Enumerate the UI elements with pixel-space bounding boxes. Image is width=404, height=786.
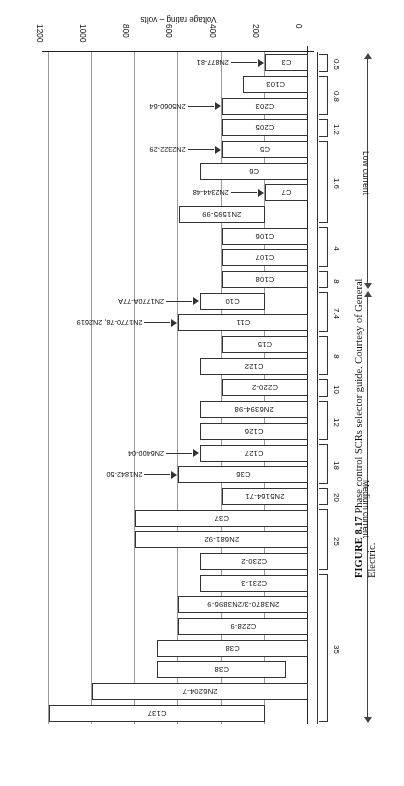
bar-row: C72N2344-48	[49, 184, 308, 201]
bar-row: C32N877-81	[49, 54, 308, 71]
bar-callout: 2N2322-29	[49, 141, 308, 158]
value-tick-label: 0	[294, 24, 304, 29]
bar-label: C107	[222, 249, 308, 266]
value-tick-label: 1000	[78, 24, 88, 43]
callout-line	[188, 149, 214, 150]
value-tick-label: 600	[165, 24, 175, 38]
bar-label: C108	[222, 271, 308, 288]
bar-label: C137	[49, 705, 265, 722]
bar-row: C220-2	[49, 380, 308, 397]
value-tick-label: 1200	[35, 24, 45, 43]
bar-row: C38	[49, 661, 308, 678]
bar-label: C103	[243, 76, 308, 93]
current-group-label: 35	[333, 641, 342, 659]
bar-row: C112N1770-78, 2N2619	[49, 314, 308, 331]
bar-row: C108	[49, 271, 308, 288]
bar-row: C228-9	[49, 618, 308, 635]
bar-row: C137	[49, 705, 308, 722]
bar-label: C38	[157, 640, 308, 657]
bar-row: C6	[49, 163, 308, 180]
current-group-bracket	[319, 509, 328, 570]
bar-label: C228-9	[179, 618, 309, 635]
current-group-bracket	[319, 401, 328, 440]
bar-label: C205	[222, 119, 308, 136]
bar-chart-plot-area: C32N877-81C103C2032N5060-64C205C52N2322-…	[49, 52, 308, 724]
bar-label: 2N6394-98	[200, 401, 308, 418]
bar-row: 2N1595-99	[49, 206, 308, 223]
bar-row: C362N1842-50	[49, 466, 308, 483]
bar-row: C231-3	[49, 575, 308, 592]
bar-callout: 2N1770A-77A	[49, 293, 308, 310]
current-group-bracket	[319, 141, 328, 224]
callout-arrowhead	[258, 59, 264, 67]
figure-number: FIGURE 8.17	[353, 516, 364, 578]
bar-label: 2N681-92	[135, 531, 308, 548]
bar-row: C107	[49, 249, 308, 266]
callout-line	[145, 474, 171, 475]
bar-label: C126	[200, 423, 308, 440]
value-tick-label: 400	[208, 24, 218, 38]
bar-row: C38	[49, 640, 308, 657]
bar-row: C230-2	[49, 553, 308, 570]
callout-line	[166, 301, 192, 302]
callout-arrowhead	[172, 471, 178, 479]
bar-row: C126	[49, 423, 308, 440]
bar-row: C1272N6400-04	[49, 445, 308, 462]
callout-arrowhead	[258, 189, 264, 197]
current-group-bracket	[319, 54, 328, 72]
current-group-label: 1.2	[333, 120, 342, 138]
bar-row: C37	[49, 510, 308, 527]
current-group-label: 4	[333, 240, 342, 258]
current-group-bracket	[319, 271, 328, 289]
current-group-bracket	[319, 574, 328, 722]
bar-label: 2N5164-71	[222, 488, 308, 505]
bar-row: C106	[49, 228, 308, 245]
current-group-bracket	[319, 227, 328, 266]
bar-row: 2N681-92	[49, 531, 308, 548]
bar-row: C52N2322-29	[49, 141, 308, 158]
current-group-label: 8	[333, 272, 342, 290]
bar-label: 2N6204-7	[92, 683, 308, 700]
bar-row: 2N6204-7	[49, 683, 308, 700]
bar-callout: 2N5060-64	[49, 98, 308, 115]
callout-text: 2N6400-04	[128, 445, 164, 462]
callout-line	[231, 62, 257, 63]
callout-arrowhead	[193, 297, 199, 305]
bar-callout: 2N877-81	[49, 54, 308, 71]
current-group-label: 0.5	[333, 55, 342, 73]
current-class-arrow-start	[364, 717, 372, 723]
bar-callout: 2N2344-48	[49, 184, 308, 201]
callout-line	[231, 192, 257, 193]
current-group-bracket	[319, 119, 328, 137]
bar-callout: 2N6400-04	[49, 445, 308, 462]
callout-text: 2N1770A-77A	[118, 293, 164, 310]
current-group-label: 0.8	[333, 88, 342, 106]
callout-line	[166, 453, 192, 454]
bar-callout: 2N1770-78, 2N2619	[49, 314, 308, 331]
current-group-bracket	[319, 76, 328, 115]
bar-label: C15	[222, 336, 308, 353]
bar-label: 2N1595-99	[179, 206, 265, 223]
current-group-label: 1.6	[333, 175, 342, 193]
current-group-bracket	[319, 379, 328, 397]
callout-arrowhead	[172, 319, 178, 327]
bar-label: C37	[135, 510, 308, 527]
current-group-bracket	[319, 488, 328, 506]
current-class-arrow-end	[364, 53, 372, 59]
bar-label: C220-2	[222, 380, 308, 397]
callout-text: 2N5060-64	[150, 98, 186, 115]
callout-arrowhead	[215, 146, 221, 154]
bar-label: C6	[200, 163, 308, 180]
callout-line	[145, 322, 171, 323]
current-group-bracket	[319, 292, 328, 331]
bar-row: 2N3870-3/2N3896-9	[49, 596, 308, 613]
bar-row: C205	[49, 119, 308, 136]
bar-label: C38	[157, 661, 287, 678]
callout-text: 2N1842-50	[106, 466, 142, 483]
bar-label: C122	[200, 358, 308, 375]
callout-text: 2N2322-29	[150, 141, 186, 158]
bar-row: C15	[49, 336, 308, 353]
bar-label: C230-2	[200, 553, 308, 570]
category-axis-spine	[317, 52, 318, 724]
callout-text: 2N2344-48	[193, 184, 229, 201]
